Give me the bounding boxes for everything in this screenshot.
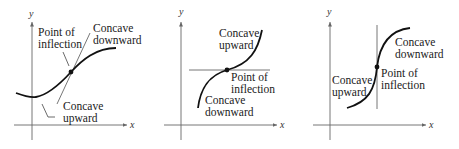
concave-up-label: Concave xyxy=(63,100,103,112)
inflection-label-2: inflection xyxy=(38,38,82,50)
x-axis-label: x xyxy=(129,119,135,130)
inflection-label-2: inflection xyxy=(381,79,425,91)
panel-slanted-tangent: y x Point of inflection Concave downward… xyxy=(14,8,142,140)
concave-up-label: Concave xyxy=(219,27,259,39)
concave-down-label-2: downward xyxy=(395,48,444,60)
x-axis-label: x xyxy=(279,119,285,130)
inflection-label: Point of xyxy=(231,71,268,83)
concave-down-label-2: downward xyxy=(93,34,142,46)
inflection-point xyxy=(375,65,380,70)
concave-down-label-2: downward xyxy=(205,106,254,118)
y-axis-label: y xyxy=(178,6,184,17)
concave-up-label-2: upward xyxy=(332,86,367,99)
inflection-leader xyxy=(63,52,69,66)
inflection-point xyxy=(69,70,74,75)
inflection-diagram: y x Point of inflection Concave downward… xyxy=(0,0,459,149)
panel-vertical-tangent: y x Concave downward Concave upward Poin… xyxy=(313,6,444,140)
inflection-point xyxy=(225,68,230,73)
concave-up-label-2: upward xyxy=(219,39,254,52)
x-axis-label: x xyxy=(428,119,434,130)
concave-up-label-2: upward xyxy=(63,112,98,125)
concave-up-label: Concave xyxy=(332,74,372,86)
inflection-label: Point of xyxy=(381,67,418,79)
y-axis-label: y xyxy=(28,8,34,19)
concave-down-label: Concave xyxy=(395,36,435,48)
concave-up-leader xyxy=(42,104,55,117)
concave-down-label: Concave xyxy=(93,22,133,34)
inflection-label: Point of xyxy=(38,26,75,38)
y-axis-label: y xyxy=(326,6,332,17)
concave-down-label: Concave xyxy=(205,94,245,106)
panel-horizontal-tangent: y x Concave upward Point of inflection C… xyxy=(164,6,285,140)
curve xyxy=(16,48,116,97)
